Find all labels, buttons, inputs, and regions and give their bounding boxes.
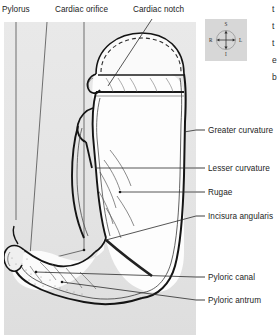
label-lesser-curvature: Lesser curvature	[208, 164, 270, 173]
edge-text-fragment-1: t	[272, 4, 278, 14]
label-greater-curvature: Greater curvature	[208, 126, 273, 135]
edge-text-fragment-3: t	[272, 38, 278, 48]
compass-arrows	[217, 31, 236, 50]
label-tick-marks	[196, 130, 205, 300]
label-cardiac-orifice: Cardiac orifice	[55, 5, 108, 14]
label-cardiac-notch: Cardiac notch	[133, 5, 184, 14]
compass-label-superior: S	[225, 22, 228, 27]
edge-text-fragment-2: t	[272, 21, 278, 31]
edge-text-fragment-4: e	[272, 55, 278, 65]
label-pyloric-canal: Pyloric canal	[208, 273, 255, 282]
label-pyloric-antrum: Pyloric antrum	[208, 296, 261, 305]
pylorus-duodenum-stub	[4, 246, 24, 272]
label-pylorus: Pylorus	[2, 5, 30, 14]
compass-label-left: L	[239, 38, 242, 43]
stomach-anatomy-figure: Pylorus Cardiac orifice Cardiac notch Gr…	[0, 0, 278, 335]
label-rugae: Rugae	[208, 188, 232, 197]
left-wall-outline	[72, 126, 84, 238]
edge-text-fragment-5: b	[272, 72, 278, 82]
lesser-curvature-descent	[86, 142, 92, 168]
pyloric-antrum-leader	[62, 282, 196, 300]
label-incisura-angularis: Incisura angularis	[208, 212, 273, 221]
fundus-fill	[96, 33, 184, 74]
stomach-body-fill	[92, 68, 184, 292]
duodenum-upper-stub	[13, 226, 18, 244]
compass-label-right: R	[209, 38, 212, 43]
pylorus-leader-line	[30, 22, 47, 256]
compass-label-inferior: I	[225, 52, 227, 57]
